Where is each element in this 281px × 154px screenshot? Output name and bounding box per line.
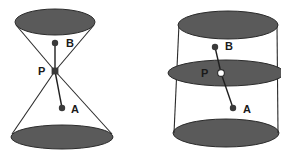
- right-top-ellipse: [178, 11, 278, 39]
- cylinder-diagram: B P A: [168, 11, 281, 147]
- geometry-figure-container: B P A B P A: [0, 0, 281, 154]
- double-cone-diagram: B P A: [11, 9, 113, 149]
- right-point-p: [218, 70, 225, 77]
- right-label-b: B: [225, 40, 233, 52]
- left-label-b: B: [66, 37, 74, 49]
- left-point-a: [59, 105, 65, 111]
- left-top-ellipse: [15, 9, 95, 35]
- left-apex-p: [52, 68, 59, 75]
- left-generator-lower-left: [12, 71, 55, 134]
- left-label-a: A: [71, 103, 79, 115]
- left-label-p: P: [38, 65, 45, 77]
- right-point-a: [230, 105, 236, 111]
- geometry-figure: B P A B P A: [0, 0, 281, 154]
- right-point-b: [212, 44, 218, 50]
- right-bottom-ellipse: [173, 119, 279, 147]
- left-bottom-ellipse: [11, 125, 113, 149]
- left-point-b: [52, 40, 58, 46]
- right-label-a: A: [243, 103, 251, 115]
- left-segment-p-a: [55, 71, 62, 108]
- right-label-p: P: [201, 67, 208, 79]
